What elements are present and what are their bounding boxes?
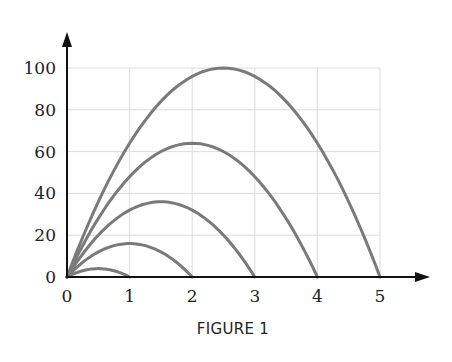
y-tick-label: 100 bbox=[24, 58, 56, 78]
x-tick-label: 5 bbox=[375, 286, 386, 306]
x-tick-label: 4 bbox=[312, 286, 323, 306]
y-tick-label: 0 bbox=[45, 267, 56, 287]
x-axis-arrow-icon bbox=[415, 272, 430, 282]
y-axis-arrow-icon bbox=[62, 32, 72, 47]
y-tick-label: 20 bbox=[34, 225, 56, 245]
curve-n=1 bbox=[67, 269, 130, 277]
x-tick-label: 3 bbox=[249, 286, 260, 306]
curves bbox=[67, 68, 380, 277]
x-tick-label: 1 bbox=[124, 286, 135, 306]
y-tick-label: 60 bbox=[34, 142, 56, 162]
x-tick-label: 0 bbox=[62, 286, 73, 306]
y-tick-label: 80 bbox=[34, 100, 56, 120]
x-tick-labels: 012345 bbox=[62, 286, 386, 306]
chart: 020406080100 012345 FIGURE 1 bbox=[0, 0, 452, 362]
curve-n=3 bbox=[67, 202, 255, 277]
y-tick-labels: 020406080100 bbox=[24, 58, 56, 287]
y-tick-label: 40 bbox=[34, 183, 56, 203]
figure-caption: FIGURE 1 bbox=[197, 320, 269, 338]
x-tick-label: 2 bbox=[187, 286, 198, 306]
